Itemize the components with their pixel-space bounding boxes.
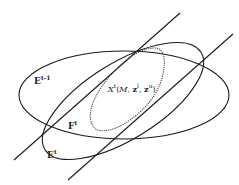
- ellipse-e-prev: [19, 51, 229, 139]
- label-f-t-sup: t: [74, 119, 77, 126]
- label-e-prev: Et-1: [34, 74, 50, 86]
- label-e-t: Et: [47, 148, 57, 160]
- label-x-t-close: ): [153, 85, 156, 94]
- diagram-canvas: Et-1 Ft Et Xt(M, zl, zu): [0, 0, 239, 185]
- line-lower: [68, 34, 233, 180]
- label-f-t: Ft: [68, 119, 77, 131]
- label-e-prev-base: E: [34, 76, 41, 86]
- label-x-t: Xt(M, zl, zu): [108, 82, 156, 94]
- label-e-t-base: E: [47, 150, 54, 160]
- label-e-t-sup: t: [54, 148, 57, 155]
- label-e-prev-sup: t-1: [41, 74, 50, 81]
